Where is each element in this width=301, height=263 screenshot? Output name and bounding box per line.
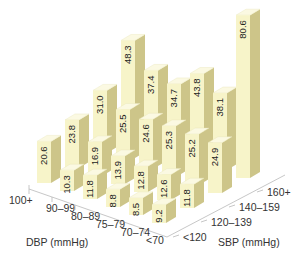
sbp-tick-label: 140–159 [239, 201, 280, 213]
sbp-tick-label: 160+ [267, 186, 291, 198]
bar-value-label: 24.9 [210, 148, 221, 167]
bar-value-label: 12.8 [136, 171, 147, 190]
bar: 10.3 [60, 164, 84, 194]
bar-side-face [79, 114, 89, 168]
bar-side-face [250, 9, 260, 178]
bar-value-label: 8.8 [108, 194, 119, 207]
bar-value-label: 12.6 [159, 180, 170, 199]
bar: 12.6 [157, 169, 181, 200]
chart-3d-bar: 48.337.434.743.831.038.125.580.624.625.3… [0, 0, 301, 263]
bar-value-label: 20.6 [39, 146, 50, 165]
bar: 11.8 [83, 169, 107, 199]
bar-value-label: 10.3 [62, 175, 73, 194]
bars-group: 48.337.434.743.831.038.125.580.624.625.3… [37, 9, 260, 223]
sbp-tick-mark [229, 205, 235, 207]
sbp-tick-mark [257, 190, 263, 192]
dbp-tick-label: 100+ [9, 194, 33, 206]
bar: 24.9 [208, 137, 232, 193]
bar: 13.9 [111, 150, 135, 184]
bar-value-label: 25.3 [164, 131, 175, 150]
bar-value-label: 34.7 [169, 89, 180, 108]
bar: 80.6 [236, 9, 260, 178]
bar-value-label: 11.8 [182, 189, 193, 207]
dbp-axis-title: DBP (mmHg) [26, 236, 88, 248]
bar-value-label: 43.8 [192, 79, 203, 98]
bar-value-label: 37.4 [146, 75, 157, 94]
bar-value-label: 31.0 [95, 95, 106, 114]
dbp-tick-label: <70 [146, 234, 164, 246]
bar-side-face [51, 135, 61, 183]
sbp-tick-mark [201, 220, 207, 222]
bar-value-label: 25.5 [118, 114, 129, 132]
bar-value-label: 11.8 [85, 180, 96, 198]
bar-value-label: 80.6 [238, 20, 249, 39]
bar-value-label: 38.1 [215, 98, 226, 117]
bar-side-face [199, 128, 209, 185]
bar: 25.2 [185, 128, 209, 185]
sbp-tick-label: 120–139 [211, 216, 252, 228]
bar: 12.8 [134, 160, 158, 192]
sbp-tick-label: <120 [183, 231, 207, 243]
bar-value-label: 48.3 [123, 45, 134, 64]
bar: 8.8 [106, 183, 130, 207]
bar-value-label: 16.9 [90, 147, 101, 166]
bar: 11.8 [180, 178, 204, 208]
bar-side-face [222, 137, 232, 193]
bar: 20.6 [37, 135, 61, 183]
bar-value-label: 24.6 [141, 124, 152, 143]
bar-value-label: 9.2 [154, 209, 165, 222]
bar-value-label: 13.9 [113, 161, 124, 180]
sbp-axis-title: SBP (mmHg) [218, 236, 280, 248]
bar-value-label: 25.2 [187, 139, 198, 158]
bar-value-label: 8.5 [131, 203, 142, 216]
bar: 9.2 [152, 198, 176, 223]
bar-value-label: 23.8 [67, 125, 78, 144]
sbp-tick-mark [173, 235, 179, 237]
bar: 8.5 [129, 192, 153, 216]
bar: 23.8 [65, 114, 89, 168]
